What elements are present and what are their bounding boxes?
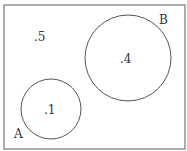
set-a-label: A xyxy=(13,127,23,141)
set-a-value: .1 xyxy=(44,103,55,117)
set-b-value: .4 xyxy=(120,52,132,66)
venn-diagram: .5 .1 .4 A B xyxy=(0,0,187,151)
outside-value: .5 xyxy=(34,30,45,44)
set-b-label: B xyxy=(159,13,168,27)
